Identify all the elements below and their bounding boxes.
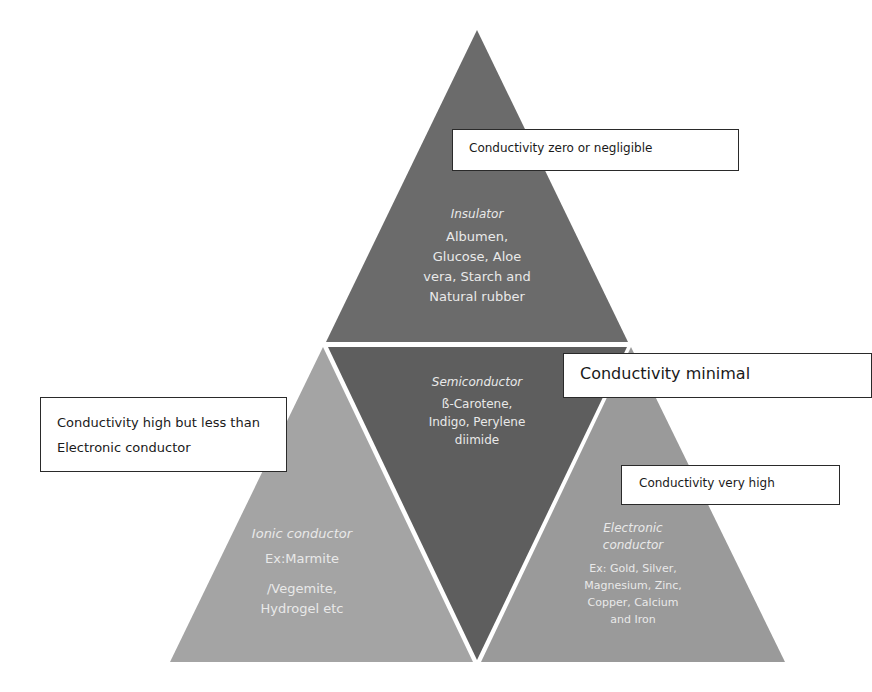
electronic-conductor-example-2: Magnesium, Zinc, xyxy=(548,577,718,594)
callout-semiconductor-text: Conductivity minimal xyxy=(580,364,750,383)
insulator-example-3: vera, Starch and xyxy=(377,267,577,287)
ionic-conductor-label: Ionic conductor Ex:Marmite /Vegemite, Hy… xyxy=(222,526,382,619)
electronic-conductor-label: Electronic conductor Ex: Gold, Silver, M… xyxy=(548,520,718,628)
callout-ionic-conductor: Conductivity high but less than Electron… xyxy=(40,397,287,472)
ionic-conductor-example-3: Hydrogel etc xyxy=(222,599,382,619)
ionic-conductor-title: Ionic conductor xyxy=(222,526,382,541)
callout-electronic-text: Conductivity very high xyxy=(639,476,775,490)
insulator-label: Insulator Albumen, Glucose, Aloe vera, S… xyxy=(377,207,577,307)
insulator-example-1: Albumen, xyxy=(377,227,577,247)
ionic-conductor-example-2: /Vegemite, xyxy=(222,579,382,599)
semiconductor-example-2: Indigo, Perylene xyxy=(377,413,577,431)
insulator-example-2: Glucose, Aloe xyxy=(377,247,577,267)
electronic-conductor-example-4: and Iron xyxy=(548,611,718,628)
semiconductor-example-3: diimide xyxy=(377,431,577,449)
semiconductor-label: Semiconductor ß-Carotene, Indigo, Peryle… xyxy=(377,375,577,449)
insulator-example-4: Natural rubber xyxy=(377,287,577,307)
ionic-conductor-example-1: Ex:Marmite xyxy=(222,549,382,569)
electronic-conductor-example-3: Copper, Calcium xyxy=(548,594,718,611)
callout-ionic-line-1: Conductivity high but less than xyxy=(57,410,286,435)
semiconductor-title: Semiconductor xyxy=(377,375,577,389)
electronic-conductor-title-2: conductor xyxy=(548,537,718,554)
callout-electronic-conductor: Conductivity very high xyxy=(621,465,840,505)
callout-ionic-line-2: Electronic conductor xyxy=(57,435,286,460)
callout-insulator: Conductivity zero or negligible xyxy=(452,129,739,171)
insulator-title: Insulator xyxy=(377,207,577,221)
callout-insulator-text: Conductivity zero or negligible xyxy=(469,141,652,155)
callout-semiconductor: Conductivity minimal xyxy=(563,353,872,398)
electronic-conductor-example-1: Ex: Gold, Silver, xyxy=(548,560,718,577)
semiconductor-example-1: ß-Carotene, xyxy=(377,395,577,413)
conductivity-pyramid xyxy=(0,0,872,692)
electronic-conductor-title-1: Electronic xyxy=(548,520,718,537)
